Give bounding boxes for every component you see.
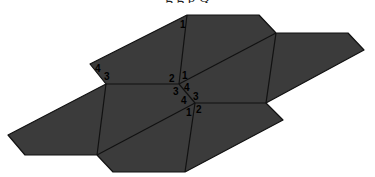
vertex-label: 3 [104,71,110,82]
vertex-label: 4 [184,82,190,93]
polygon-net-diagram: 14321434312 [0,0,375,177]
vertex-label: 3 [173,86,179,97]
vertex-label: 4 [181,95,187,106]
vertex-label: 3 [193,91,199,102]
vertex-label: 1 [186,107,192,118]
vertex-label: 1 [182,70,188,81]
vertex-label: 2 [169,73,175,84]
vertex-label: 4 [95,63,101,74]
net-outline [8,15,364,172]
vertex-label: 2 [196,104,202,115]
vertex-label: 1 [180,19,186,30]
